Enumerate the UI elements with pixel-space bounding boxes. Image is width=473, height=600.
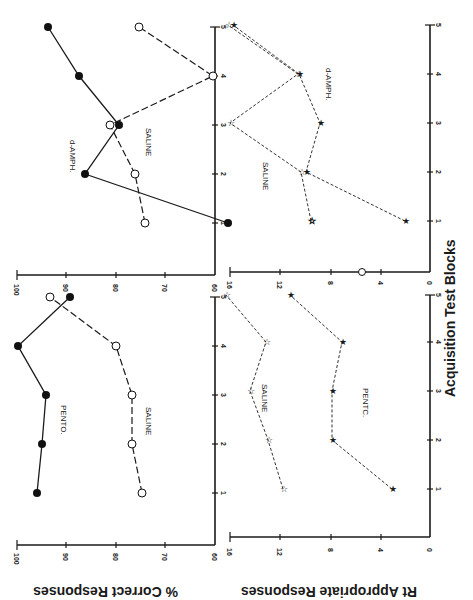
svg-text:4: 4	[377, 281, 384, 285]
pct-tick-labels-top: 100 90 80 70 60	[13, 284, 218, 296]
svg-text:1: 1	[435, 219, 442, 223]
svg-text:90: 90	[62, 553, 69, 561]
svg-text:5: 5	[435, 293, 442, 297]
bl-series-saline	[46, 293, 146, 497]
pct-tick-labels-bottom: 100 90 80 70 60	[13, 553, 218, 565]
svg-text:1: 1	[435, 487, 442, 491]
tl-series-damph	[44, 23, 232, 227]
svg-text:☆: ☆	[308, 216, 316, 226]
svg-text:☆: ☆	[263, 337, 271, 347]
svg-text:★: ★	[339, 337, 347, 347]
svg-text:90: 90	[62, 284, 69, 292]
svg-text:★: ★	[287, 290, 295, 300]
svg-text:60: 60	[211, 284, 218, 292]
br-label-pentc: PENTC.	[361, 388, 370, 417]
top-left-panel	[17, 27, 215, 275]
svg-text:☆: ☆	[280, 484, 288, 494]
svg-text:★: ★	[389, 484, 397, 494]
tr-label-saline: SALINE	[261, 162, 270, 190]
rt-tick-labels-bottom: 16 12 8 4 0	[226, 548, 433, 556]
x-axis-title: Acquisition Test Blocks	[442, 239, 458, 397]
br-series-pento: ★★ ★★ ★	[287, 290, 397, 494]
svg-text:16: 16	[226, 281, 233, 289]
svg-text:2: 2	[435, 438, 442, 442]
br-label-saline: SALINE	[260, 384, 269, 412]
svg-text:3: 3	[435, 389, 442, 393]
y-axis-title-right: Rt Appropriate Responses	[241, 584, 417, 600]
tr-series-saline: ☆ ☆☆ ☆☆	[225, 20, 316, 226]
svg-text:4: 4	[220, 74, 227, 78]
svg-text:3: 3	[220, 393, 227, 397]
svg-text:0: 0	[426, 281, 433, 285]
svg-text:8: 8	[327, 281, 334, 285]
svg-text:2: 2	[435, 170, 442, 174]
tr-label-damph: d-AMPH.	[324, 68, 333, 100]
svg-text:4: 4	[220, 344, 227, 348]
svg-text:★: ★	[402, 216, 410, 226]
svg-text:2: 2	[220, 172, 227, 176]
svg-text:80: 80	[112, 553, 119, 561]
svg-text:☆: ☆	[265, 435, 273, 445]
tr-series-damph: ★★ ★★ ★	[230, 20, 410, 226]
svg-text:4: 4	[377, 548, 384, 552]
svg-text:★: ★	[329, 435, 337, 445]
svg-text:☆: ☆	[223, 290, 231, 300]
svg-text:3: 3	[220, 123, 227, 127]
svg-text:60: 60	[211, 553, 218, 561]
svg-text:☆: ☆	[227, 118, 235, 128]
rt-tick-labels-top: 16 12 8 4 0	[226, 281, 433, 289]
svg-text:12: 12	[276, 281, 283, 289]
svg-text:★: ★	[329, 386, 337, 396]
svg-text:0: 0	[426, 548, 433, 552]
svg-text:☆: ☆	[295, 69, 303, 79]
bl-label-pento: PENTO.	[59, 405, 68, 435]
svg-text:3: 3	[435, 121, 442, 125]
tl-label-damph: d-AMPH.	[68, 140, 77, 172]
svg-text:70: 70	[161, 553, 168, 561]
svg-text:2: 2	[220, 442, 227, 446]
rotated-figure: 100 90 80 70 60 100 90 80 70 60 16 12 8 …	[0, 0, 473, 600]
svg-text:5: 5	[435, 23, 442, 27]
svg-text:70: 70	[161, 284, 168, 292]
svg-text:16: 16	[226, 548, 233, 556]
svg-text:4: 4	[435, 72, 442, 76]
top-right-panel	[230, 25, 430, 272]
svg-text:★: ★	[317, 118, 325, 128]
bottom-left-panel	[17, 297, 215, 545]
br-series-saline: ☆☆ ☆☆ ☆	[223, 290, 288, 494]
rt-ticks	[230, 267, 381, 542]
stray-open-circle	[359, 269, 366, 276]
svg-text:1: 1	[220, 491, 227, 495]
pct-ticks	[17, 270, 165, 550]
svg-text:100: 100	[13, 553, 20, 565]
block-ticks	[210, 25, 435, 493]
bl-label-saline: SALINE	[144, 407, 153, 435]
bl-series-pento	[14, 293, 74, 497]
svg-text:☆: ☆	[247, 386, 255, 396]
svg-text:☆: ☆	[225, 20, 233, 30]
svg-text:4: 4	[435, 340, 442, 344]
y-axis-title-left: % Correct Responses	[33, 584, 178, 600]
svg-text:80: 80	[112, 284, 119, 292]
svg-text:12: 12	[276, 548, 283, 556]
svg-text:☆: ☆	[298, 167, 306, 177]
svg-text:100: 100	[13, 284, 20, 296]
tl-label-saline: SALINE	[144, 128, 153, 156]
svg-text:8: 8	[327, 548, 334, 552]
